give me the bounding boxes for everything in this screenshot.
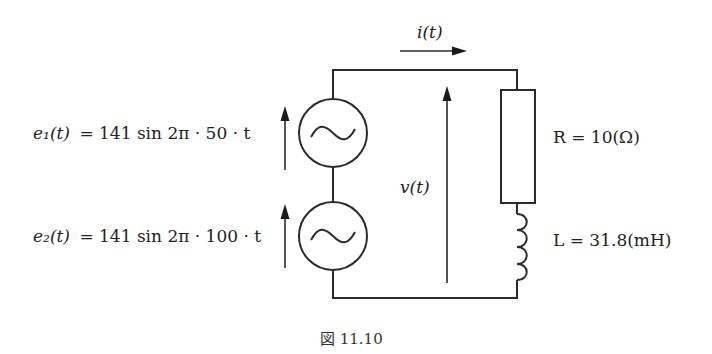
inductor-label: L = 31.8(mH) (553, 230, 671, 250)
top-wire (333, 70, 517, 99)
circuit-diagram: e₁(t) = 141 sin 2π · 50 · t e₂(t) = 141 … (0, 0, 712, 354)
e2-label: e₂(t) = 141 sin 2π · 100 · t (33, 226, 261, 246)
resistor-label: R = 10(Ω) (553, 127, 640, 147)
current-label: i(t) (417, 22, 443, 42)
sine-wave-icon (311, 230, 355, 243)
voltage-label: v(t) (400, 177, 430, 197)
voltage-arrow (443, 86, 452, 283)
e1-direction-arrow (281, 106, 290, 170)
e2-direction-arrow (281, 204, 290, 268)
e1-label: e₁(t) = 141 sin 2π · 50 · t (33, 123, 250, 143)
current-arrow (400, 47, 467, 56)
ac-source-2 (299, 202, 367, 270)
figure-caption: 図 11.10 (320, 330, 383, 348)
sine-wave-icon (311, 127, 355, 140)
inductor-coil (517, 214, 527, 280)
resistor (501, 90, 535, 203)
bottom-wire (333, 270, 517, 298)
ac-source-1 (299, 99, 367, 167)
